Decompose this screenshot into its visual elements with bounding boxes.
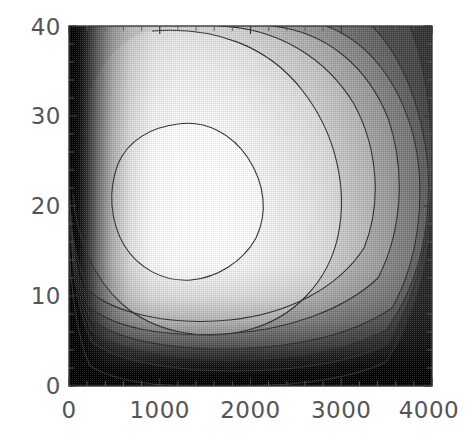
y-tick-labels: 0 10 20 30 40 <box>31 14 61 399</box>
contour-plot-figure: 0 10 20 30 40 0 1000 2000 3000 4000 <box>0 0 473 446</box>
x-tick-label-4000: 4000 <box>399 397 460 423</box>
y-tick-label-10: 10 <box>31 283 61 309</box>
halftone-texture <box>69 26 432 386</box>
y-tick-label-40: 40 <box>31 14 61 40</box>
y-tick-label-30: 30 <box>31 103 61 129</box>
x-tick-label-3000: 3000 <box>311 397 372 423</box>
x-tick-label-0: 0 <box>61 397 76 423</box>
contour-field <box>69 26 432 386</box>
y-tick-label-20: 20 <box>31 193 61 219</box>
x-tick-labels: 0 1000 2000 3000 4000 <box>61 397 459 423</box>
plot-canvas: 0 10 20 30 40 0 1000 2000 3000 4000 <box>0 0 473 446</box>
x-tick-label-2000: 2000 <box>220 397 281 423</box>
x-tick-label-1000: 1000 <box>129 397 190 423</box>
y-tick-label-0: 0 <box>46 373 61 399</box>
